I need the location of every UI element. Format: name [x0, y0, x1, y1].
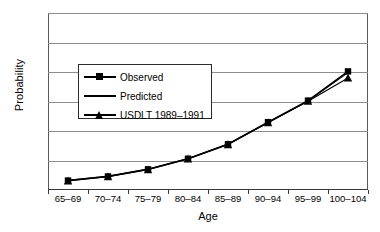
- data-point-observed: [105, 173, 111, 179]
- legend-marker-triangle-icon: [84, 109, 116, 121]
- legend-item-usdlt[interactable]: USDLT 1989–1991: [79, 107, 211, 123]
- x-axis-title: Age: [48, 210, 368, 222]
- legend-label: Observed: [120, 72, 163, 83]
- legend-label: Predicted: [120, 91, 162, 102]
- data-point-observed: [305, 97, 311, 103]
- legend-item-predicted[interactable]: Predicted: [79, 88, 211, 104]
- data-point-observed: [345, 68, 351, 74]
- data-point-observed: [265, 119, 271, 125]
- x-axis-tick-label: 100–104: [318, 193, 378, 204]
- data-point-observed: [185, 156, 191, 162]
- legend-item-observed[interactable]: Observed: [79, 69, 211, 85]
- data-point-observed: [65, 177, 71, 183]
- data-point-observed: [225, 141, 231, 147]
- data-point-observed: [145, 166, 151, 172]
- chart-figure: Probability 0.000.100.200.300.400.500.60…: [0, 0, 380, 232]
- legend-marker-line-icon: [84, 90, 116, 102]
- legend-marker-square-icon: [84, 71, 116, 83]
- legend-label: USDLT 1989–1991: [120, 110, 205, 121]
- legend: Observed Predicted USDLT 1989–1991: [78, 64, 212, 119]
